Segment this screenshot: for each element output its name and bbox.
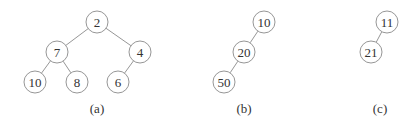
node-label: 7 xyxy=(54,45,61,60)
node-label: 6 xyxy=(115,75,122,90)
node-label: 21 xyxy=(365,45,378,60)
node-label: 20 xyxy=(238,45,251,60)
tree-node: 8 xyxy=(66,71,88,93)
tree-a: 2741086(a) xyxy=(24,11,151,116)
node-label: 10 xyxy=(258,15,271,30)
tree-edge xyxy=(63,61,71,73)
tree-node: 4 xyxy=(129,41,151,63)
tree-c: 1121(c) xyxy=(360,11,398,116)
node-label: 50 xyxy=(218,75,231,90)
node-label: 8 xyxy=(74,75,81,90)
tree-edge xyxy=(42,61,51,73)
node-label: 10 xyxy=(29,75,42,90)
tree-edge xyxy=(66,29,88,46)
tree-edge xyxy=(376,32,382,43)
tree-node: 10 xyxy=(24,71,46,93)
tree-node: 6 xyxy=(107,71,129,93)
tree-b: 102050(b) xyxy=(213,11,275,116)
tree-caption: (c) xyxy=(373,101,387,116)
tree-node: 11 xyxy=(376,11,398,33)
tree-node: 10 xyxy=(253,11,275,33)
tree-edge xyxy=(250,31,258,43)
tree-edge xyxy=(106,28,131,45)
tree-edge xyxy=(230,61,238,73)
tree-node: 20 xyxy=(233,41,255,63)
tree-node: 21 xyxy=(360,41,382,63)
tree-caption: (a) xyxy=(90,101,104,116)
tree-node: 2 xyxy=(86,11,108,33)
tree-caption: (b) xyxy=(236,101,251,116)
trees-layer: 2741086(a)102050(b)1121(c) xyxy=(24,11,398,116)
tree-node: 7 xyxy=(46,41,68,63)
tree-edge xyxy=(125,61,134,73)
tree-node: 50 xyxy=(213,71,235,93)
node-label: 4 xyxy=(137,45,144,60)
binary-trees-diagram: 2741086(a)102050(b)1121(c) xyxy=(0,0,417,124)
node-label: 11 xyxy=(381,15,394,30)
node-label: 2 xyxy=(94,15,101,30)
